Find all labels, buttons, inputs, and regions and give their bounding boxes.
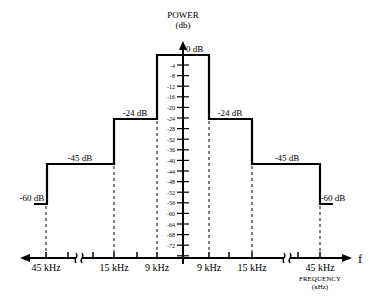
x-tick-label: 9 kHz xyxy=(145,262,170,273)
y-tick-label: -16 xyxy=(167,94,175,100)
x-tick-label: 9 kHz xyxy=(197,262,222,273)
x-axis-left-arrow-icon xyxy=(20,254,30,262)
y-tick-label: -24 xyxy=(167,116,175,122)
level-label: 0 dB xyxy=(186,44,203,54)
y-tick-label: -68 xyxy=(167,232,175,238)
level-label: -60 dB xyxy=(20,193,45,203)
level-label: -24 dB xyxy=(218,108,243,118)
x-axis-right-arrow-icon xyxy=(342,254,352,262)
x-axis-symbol: f xyxy=(358,251,363,266)
level-label: -45 dB xyxy=(68,153,93,163)
y-tick-label: -64 xyxy=(167,222,175,228)
x-axis-title: FREQUENCY xyxy=(299,275,341,283)
y-tick-label: -56 xyxy=(167,200,175,206)
y-tick-label: -36 xyxy=(167,147,175,153)
axis-break-left-icon xyxy=(75,253,83,263)
spectral-mask-diagram: POWER (db) -4-8-12-16-20-24-28-32-36-40-… xyxy=(0,0,376,307)
x-axis: 45 kHz 15 kHz 9 kHz 9 kHz 15 kHz 45 kHz … xyxy=(20,251,363,291)
y-ticks: -4-8-12-16-20-24-28-32-36-40-44-48-52-56… xyxy=(167,63,189,256)
y-axis-title: POWER xyxy=(167,10,199,20)
y-tick-label: -28 xyxy=(167,126,175,132)
y-tick-label: -52 xyxy=(167,190,175,196)
y-tick-label: -20 xyxy=(167,105,175,111)
y-tick-label: -44 xyxy=(167,169,175,175)
axis-break-right-icon xyxy=(283,253,291,263)
x-tick-label: 45 kHz xyxy=(31,262,61,273)
level-label: -24 dB xyxy=(123,108,148,118)
y-tick-label: -4 xyxy=(170,63,175,69)
y-tick-label: -60 xyxy=(167,211,175,217)
level-label: -45 dB xyxy=(275,153,300,163)
y-tick-label: -48 xyxy=(167,179,175,185)
y-tick-label: -72 xyxy=(167,243,175,249)
level-label: -60 dB xyxy=(321,193,346,203)
x-tick-label: 15 kHz xyxy=(99,262,129,273)
x-tick-label: 45 kHz xyxy=(305,262,335,273)
y-tick-label: -12 xyxy=(167,84,175,90)
x-axis-unit: (kHz) xyxy=(312,283,329,291)
x-tick-label: 15 kHz xyxy=(237,262,267,273)
y-axis-unit: (db) xyxy=(176,20,191,30)
y-tick-label: -8 xyxy=(170,73,175,79)
y-tick-label: -32 xyxy=(167,137,175,143)
y-tick-label: -40 xyxy=(167,158,175,164)
